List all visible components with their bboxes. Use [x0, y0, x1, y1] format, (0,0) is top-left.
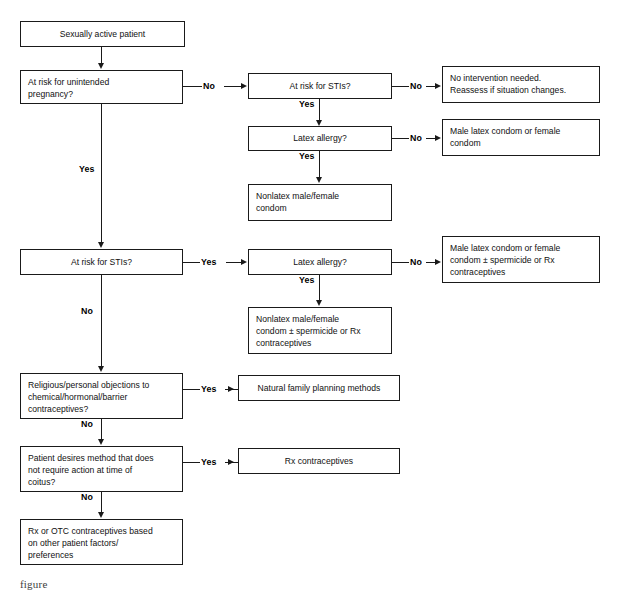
connector-objections-yes-left	[183, 389, 200, 390]
connector-latex-top-no-left	[392, 138, 409, 139]
edge-label-latex-top-no: No	[410, 133, 422, 143]
figure-caption: figure	[20, 578, 47, 590]
arrowhead-latex-mid-yes	[316, 300, 322, 306]
arrowhead-objections-no	[98, 439, 104, 445]
arrowhead-coitus-no	[98, 512, 104, 518]
node-out-rx-or-otc: Rx or OTC contraceptives based on other …	[20, 519, 183, 565]
edge-label-sti-mid-yes: Yes	[201, 257, 216, 267]
arrowhead-sti-top-no	[435, 83, 441, 89]
connector-sti-mid-no	[101, 275, 102, 367]
connector-latex-mid-no-left	[392, 262, 409, 263]
arrowhead-pregnancy-yes	[98, 242, 104, 248]
node-out-nonlatex-spermicide: Nonlatex male/female condom ± spermicide…	[248, 307, 392, 354]
connector-coitus-no	[101, 492, 102, 513]
connector-sti-mid-yes-right	[226, 262, 241, 263]
node-out-male-latex-spermicide: Male latex condom or female condom ± spe…	[442, 236, 600, 283]
edge-label-objections-no: No	[81, 419, 93, 429]
edge-label-latex-mid-yes: Yes	[299, 275, 314, 285]
arrowhead-coitus-yes	[228, 459, 234, 465]
edge-label-objections-yes: Yes	[201, 384, 216, 394]
connector-pregnancy-no-right	[224, 86, 241, 87]
connector-sti-mid-yes-left	[183, 262, 200, 263]
node-out-rx-contraceptives: Rx contraceptives	[238, 448, 400, 474]
node-q-latex-top: Latex allergy?	[248, 126, 392, 151]
node-q-sti-mid: At risk for STIs?	[20, 249, 183, 275]
node-start: Sexually active patient	[20, 21, 185, 47]
arrowhead-latex-top-yes	[316, 177, 322, 183]
edge-label-latex-top-yes: Yes	[299, 151, 314, 161]
node-out-no-intervention: No intervention needed. Reassess if situ…	[442, 66, 600, 103]
node-q-unintended-pregnancy: At risk for unintended pregnancy?	[20, 70, 183, 104]
node-q-sti-top: At risk for STIs?	[248, 73, 392, 99]
edge-label-latex-mid-no: No	[410, 257, 422, 267]
connector-sti-top-yes	[319, 99, 320, 121]
edge-label-sti-top-no: No	[410, 81, 422, 91]
arrowhead-sti-mid-no	[98, 366, 104, 372]
edge-label-coitus-no: No	[81, 492, 93, 502]
arrowhead-sti-mid-yes	[241, 259, 247, 265]
connector-coitus-yes-left	[183, 462, 200, 463]
arrowhead-start-to-pregnancy	[98, 63, 104, 69]
flowchart-canvas: Sexually active patient At risk for unin…	[0, 0, 620, 592]
arrowhead-objections-yes	[228, 386, 234, 392]
arrowhead-latex-top-no	[435, 135, 441, 141]
edge-label-pregnancy-no: No	[203, 81, 215, 91]
node-out-natural-family-planning: Natural family planning methods	[238, 375, 400, 401]
edge-label-coitus-yes: Yes	[201, 457, 216, 467]
connector-latex-mid-yes	[319, 275, 320, 301]
node-q-latex-mid: Latex allergy?	[248, 249, 392, 275]
connector-start-to-pregnancy	[101, 47, 102, 64]
node-q-objections: Religious/personal objections to chemica…	[20, 373, 183, 419]
arrowhead-latex-mid-no	[435, 259, 441, 265]
connector-latex-top-yes	[319, 151, 320, 178]
edge-label-pregnancy-yes: Yes	[79, 164, 94, 174]
connector-pregnancy-no-left	[183, 86, 202, 87]
connector-objections-no	[101, 419, 102, 440]
node-out-nonlatex-condom: Nonlatex male/female condom	[248, 184, 392, 221]
edge-label-sti-top-yes: Yes	[299, 99, 314, 109]
edge-label-sti-mid-no: No	[81, 306, 93, 316]
connector-pregnancy-yes	[101, 104, 102, 243]
connector-sti-top-no-left	[392, 86, 409, 87]
node-q-no-coitus-action: Patient desires method that does not req…	[20, 446, 183, 492]
node-out-male-latex-condom: Male latex condom or female condom	[442, 119, 600, 156]
arrowhead-pregnancy-no	[241, 83, 247, 89]
